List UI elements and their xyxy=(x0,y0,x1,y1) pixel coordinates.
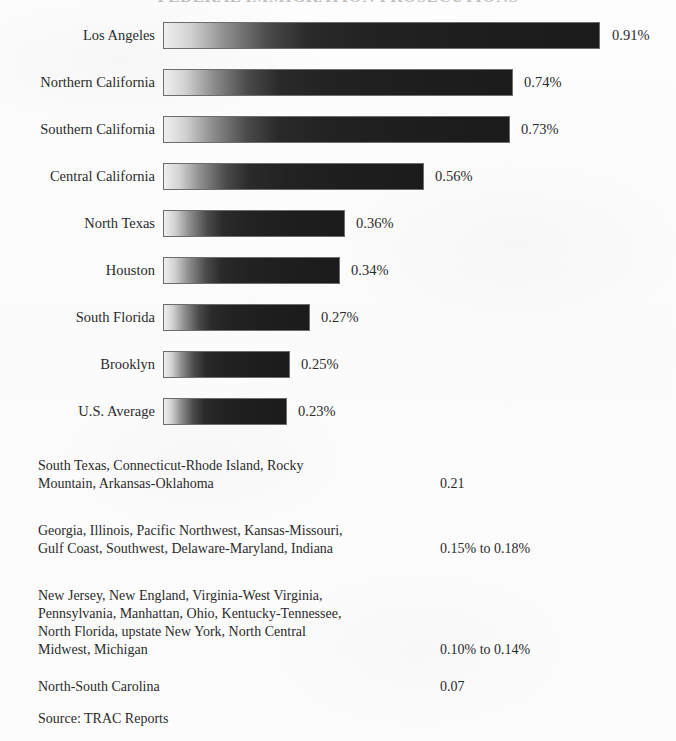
bar-category-label: Houston xyxy=(0,257,155,284)
supplemental-row-line: Mountain, Arkansas-Oklahoma xyxy=(38,475,428,493)
bar xyxy=(163,116,510,143)
bar-fill xyxy=(163,116,510,143)
bar-category-label: Southern California xyxy=(0,116,155,143)
bar-value-label: 0.34% xyxy=(351,257,388,284)
bar-value-label: 0.74% xyxy=(524,69,561,96)
bar-category-label: Los Angeles xyxy=(0,22,155,49)
bar xyxy=(163,69,513,96)
bar-value-label: 0.73% xyxy=(521,116,558,143)
supplemental-row-value: 0.15% to 0.18% xyxy=(440,540,530,558)
bar-value-label: 0.36% xyxy=(356,210,393,237)
bar-row: U.S. Average0.23% xyxy=(0,398,676,425)
bar xyxy=(163,351,290,378)
bar-row: Southern California0.73% xyxy=(0,116,676,143)
supplemental-row-line: Midwest, Michigan xyxy=(38,641,428,659)
bar-value-label: 0.27% xyxy=(321,304,358,331)
supplemental-row-line: Pennsylvania, Manhattan, Ohio, Kentucky-… xyxy=(38,605,428,623)
chart-title: FEDERAL IMMIGRATION PROSECUTIONS xyxy=(0,0,676,7)
bar-category-label: North Texas xyxy=(0,210,155,237)
source-note: Source: TRAC Reports xyxy=(38,711,168,727)
bar xyxy=(163,257,340,284)
supplemental-row-value: 0.07 xyxy=(440,678,465,696)
bar xyxy=(163,304,310,331)
bar-category-label: Central California xyxy=(0,163,155,190)
bar-value-label: 0.91% xyxy=(612,22,649,49)
bar-row: Los Angeles0.91% xyxy=(0,22,676,49)
supplemental-row-line: North Florida, upstate New York, North C… xyxy=(38,623,428,641)
supplemental-row-line: South Texas, Connecticut-Rhode Island, R… xyxy=(38,457,428,475)
supplemental-row-value: 0.21 xyxy=(440,475,465,493)
supplemental-row-line: Gulf Coast, Southwest, Delaware-Maryland… xyxy=(38,540,428,558)
supplemental-row-line: New Jersey, New England, Virginia-West V… xyxy=(38,587,428,605)
supplemental-row-value: 0.10% to 0.14% xyxy=(440,641,530,659)
bar-chart: FEDERAL IMMIGRATION PROSECUTIONS Los Ang… xyxy=(0,0,676,741)
supplemental-row-line: North-South Carolina xyxy=(38,678,428,696)
bar-fill xyxy=(163,351,290,378)
bar-fill xyxy=(163,69,513,96)
bar-fill xyxy=(163,210,345,237)
supplemental-row-names: New Jersey, New England, Virginia-West V… xyxy=(38,587,428,659)
bar xyxy=(163,163,424,190)
supplemental-row-names: South Texas, Connecticut-Rhode Island, R… xyxy=(38,457,428,493)
bar-row: South Florida0.27% xyxy=(0,304,676,331)
bar-fill xyxy=(163,257,340,284)
bar-value-label: 0.25% xyxy=(301,351,338,378)
bar xyxy=(163,210,345,237)
bar-value-label: 0.23% xyxy=(298,398,335,425)
bar-fill xyxy=(163,398,287,425)
bar-row: North Texas0.36% xyxy=(0,210,676,237)
bar-row: Houston0.34% xyxy=(0,257,676,284)
bar-value-label: 0.56% xyxy=(435,163,472,190)
bar xyxy=(163,22,600,49)
bar-row: Central California0.56% xyxy=(0,163,676,190)
bar-fill xyxy=(163,304,310,331)
bar-row: Northern California0.74% xyxy=(0,69,676,96)
bar xyxy=(163,398,287,425)
bar-fill xyxy=(163,22,600,49)
bar-category-label: Brooklyn xyxy=(0,351,155,378)
bar-category-label: South Florida xyxy=(0,304,155,331)
bar-fill xyxy=(163,163,424,190)
supplemental-row-names: Georgia, Illinois, Pacific Northwest, Ka… xyxy=(38,522,428,558)
bar-category-label: Northern California xyxy=(0,69,155,96)
bar-category-label: U.S. Average xyxy=(0,398,155,425)
supplemental-row-line: Georgia, Illinois, Pacific Northwest, Ka… xyxy=(38,522,428,540)
supplemental-row-names: North-South Carolina xyxy=(38,678,428,696)
bar-row: Brooklyn0.25% xyxy=(0,351,676,378)
